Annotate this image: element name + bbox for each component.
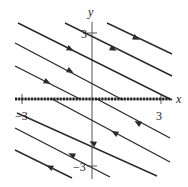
arrow-icon: [43, 78, 52, 87]
x-tick-label-3: 3: [156, 109, 162, 123]
arrow-icon: [110, 128, 119, 137]
y-axis-label: y: [87, 5, 94, 19]
arrow-icon: [45, 163, 54, 171]
x-axis-label: x: [175, 92, 182, 106]
arrow-icon: [66, 45, 75, 53]
y-tick-label-3: 3: [81, 27, 87, 41]
trajectory-b2: [52, 99, 170, 162]
y-tick-label-minus-3: −3: [73, 160, 86, 174]
trajectory-t3: [18, 23, 172, 100]
trajectory-b5: [15, 150, 72, 178]
x-tick-label-minus-3: −3: [15, 109, 28, 123]
trajectory-b4: [15, 128, 110, 177]
phase-portrait: y x 3 −3 3 −3: [0, 0, 188, 187]
